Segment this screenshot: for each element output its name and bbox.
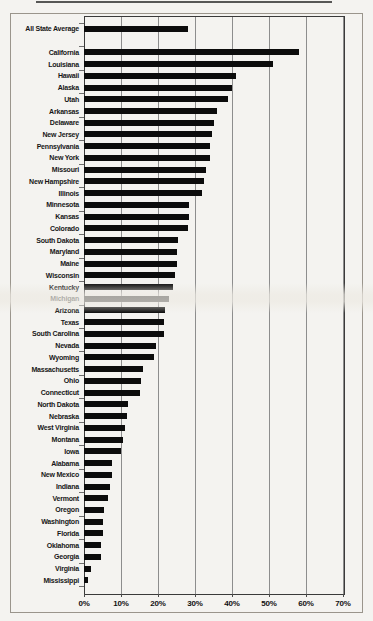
bar: [84, 366, 143, 372]
category-label: Vermont: [5, 495, 84, 502]
category-label: Missouri: [5, 166, 84, 173]
bar-track: [84, 140, 343, 152]
category-label: New Mexico: [5, 471, 84, 478]
bar-track: [84, 457, 343, 469]
bar: [84, 190, 202, 196]
category-label: Massachusetts: [5, 366, 84, 373]
bar: [84, 354, 154, 360]
bar: [84, 296, 169, 302]
bar-track: [84, 58, 343, 70]
category-label: Wisconsin: [5, 272, 84, 279]
bar: [84, 495, 108, 501]
bar: [84, 390, 140, 396]
x-axis-tick: [306, 594, 307, 597]
bar-track: [84, 293, 343, 305]
bar-row: Oregon: [5, 504, 343, 516]
bar-row: Kentucky: [5, 281, 343, 293]
bar-track: [84, 258, 343, 270]
bar-row: New Jersey: [5, 129, 343, 141]
category-label: Minnesota: [5, 201, 84, 208]
bar-track: [84, 575, 343, 587]
category-label: Maryland: [5, 248, 84, 255]
bar: [84, 472, 112, 478]
x-axis-tick: [232, 594, 233, 597]
bar-track: [84, 340, 343, 352]
x-axis-tick: [343, 594, 344, 597]
bar-row: Nevada: [5, 340, 343, 352]
category-label: Delaware: [5, 119, 84, 126]
bar-track: [84, 551, 343, 563]
bar-track: [84, 328, 343, 340]
bar: [84, 178, 204, 184]
gridline: [343, 17, 344, 594]
bar-track: [84, 363, 343, 375]
bar: [84, 484, 110, 490]
bar-row: Montana: [5, 434, 343, 446]
bar: [84, 378, 141, 384]
bar-row: Missouri: [5, 164, 343, 176]
category-label: Nebraska: [5, 413, 84, 420]
bar-row: Georgia: [5, 551, 343, 563]
x-axis-tick: [121, 594, 122, 597]
bar: [84, 530, 103, 536]
bar: [84, 307, 165, 313]
bar: [84, 167, 206, 173]
bar-track: [84, 222, 343, 234]
bar-track: [84, 246, 343, 258]
category-label: Alaska: [5, 84, 84, 91]
category-label: West Virginia: [5, 424, 84, 431]
bar-row: California: [5, 46, 343, 58]
category-label: Washington: [5, 518, 84, 525]
bar: [84, 225, 188, 231]
bar: [84, 261, 177, 267]
category-label: New York: [5, 154, 84, 161]
category-label: Louisiana: [5, 61, 84, 68]
bar-row: Delaware: [5, 117, 343, 129]
bar-row: Arkansas: [5, 105, 343, 117]
bar-row: [5, 35, 343, 47]
bar-track: [84, 70, 343, 82]
bar-row: Illinois: [5, 187, 343, 199]
category-label: Colorado: [5, 225, 84, 232]
bar-row: New Mexico: [5, 469, 343, 481]
category-label: South Dakota: [5, 237, 84, 244]
bar-row: Pennsylvania: [5, 140, 343, 152]
bar: [84, 272, 175, 278]
category-label: Mississippi: [5, 577, 84, 584]
x-axis-tick-label: 60%: [298, 599, 313, 608]
bar: [84, 214, 189, 220]
bar: [84, 49, 299, 55]
category-label: Utah: [5, 96, 84, 103]
bar: [84, 131, 212, 137]
category-label: Illinois: [5, 190, 84, 197]
category-label: Wyoming: [5, 354, 84, 361]
bar-track: [84, 410, 343, 422]
category-label: Maine: [5, 260, 84, 267]
category-label: North Dakota: [5, 401, 84, 408]
bar-track: [84, 422, 343, 434]
bar: [84, 96, 228, 102]
bar-track: [84, 316, 343, 328]
bar-row: Louisiana: [5, 58, 343, 70]
bar-track: [84, 164, 343, 176]
bar-track: [84, 35, 343, 47]
bar: [84, 155, 210, 161]
bar-row: New York: [5, 152, 343, 164]
x-axis-tick: [269, 594, 270, 597]
category-label: Texas: [5, 319, 84, 326]
bar: [84, 120, 214, 126]
bar-row: All State Average: [5, 23, 343, 35]
bar: [84, 237, 178, 243]
category-label: New Jersey: [5, 131, 84, 138]
category-label: Michigan: [5, 295, 84, 302]
bar-row: West Virginia: [5, 422, 343, 434]
bar-track: [84, 305, 343, 317]
bar-track: [84, 434, 343, 446]
bar: [84, 577, 88, 583]
x-axis: 0%10%20%30%40%50%60%70%: [84, 594, 343, 614]
bar-track: [84, 129, 343, 141]
bar-track: [84, 93, 343, 105]
bar-row: South Dakota: [5, 234, 343, 246]
bar: [84, 143, 210, 149]
bar-row: Hawaii: [5, 70, 343, 82]
